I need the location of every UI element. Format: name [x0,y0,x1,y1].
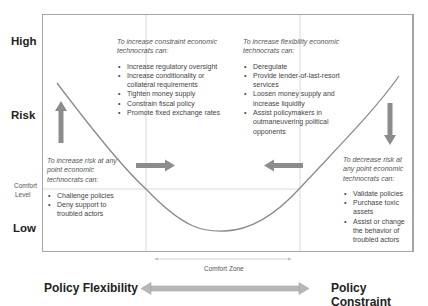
list-item: Assist or change the behavior of trouble… [343,217,409,245]
list-item: Loosen money supply and increase liquidi… [243,89,353,108]
left-arrow-icon [264,160,303,172]
increase-flexibility-box: To increase flexibility economic technoc… [243,37,353,136]
right-arrow-icon [136,160,175,172]
policy-flexibility-label: Policy Flexibility [44,281,138,295]
y-label-risk: Risk [11,109,35,121]
comfort-zone-label: Comfort Zone [204,265,244,272]
y-label-comfort-level: Comfort Level [14,181,37,199]
box-header: To increase risk at any point economic t… [47,156,119,184]
increase-constraint-box: To increase constraint economic technocr… [117,37,223,117]
list-item: Validate policies [343,189,409,198]
y-label-low: Low [13,222,36,234]
list-item: Assist policymakers in outmaneuvering po… [243,108,353,136]
up-arrow-icon [55,101,67,143]
policy-constraint-label: Policy Constraint [331,281,428,306]
list-item: Tighten money supply [117,89,223,98]
box-header: To decrease risk at any point economic t… [343,155,409,183]
box-header: To increase flexibility economic technoc… [243,37,353,56]
list-item: Constrain fiscal policy [117,99,223,108]
flexibility-constraint-double-arrow-icon [141,283,309,295]
box-header: To increase constraint economic technocr… [117,37,223,56]
level-label: Level [14,190,37,199]
list-item: Challenge policies [47,191,119,200]
list-item: Purchase toxic assets [343,198,409,217]
list-item: Deregulate [243,62,353,71]
list-item: Promote fixed exchange rates [117,108,223,117]
decrease-risk-box: To decrease risk at any point economic t… [343,155,409,245]
action-list: Deregulate Provide lender-of-last-resort… [243,62,353,136]
list-item: Provide lender-of-last-resort services [243,71,353,90]
increase-risk-box: To increase risk at any point economic t… [47,156,119,219]
action-list: Challenge policies Deny support to troub… [47,191,119,219]
list-item: Deny support to troubled actors [47,200,119,219]
comfort-zone-arrow-icon [154,258,292,261]
list-item: Increase regulatory oversight [117,62,223,71]
down-arrow-icon [384,103,396,145]
list-item: Increase conditionality or collateral re… [117,71,223,90]
comfort-label: Comfort [14,181,37,190]
y-label-high: High [11,35,37,47]
action-list: Increase regulatory oversight Increase c… [117,62,223,118]
action-list: Validate policies Purchase toxic assets … [343,189,409,245]
